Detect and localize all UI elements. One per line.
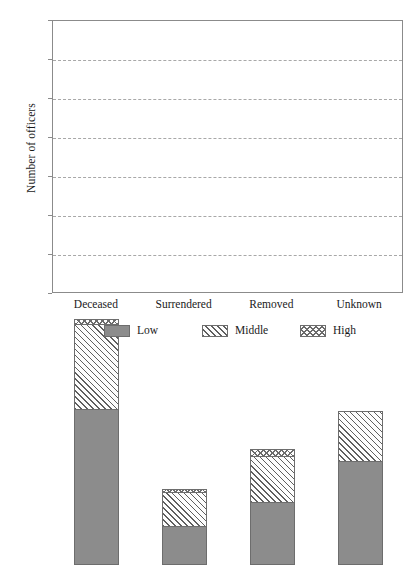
bar-segment-surrendered-high (162, 489, 207, 492)
y-tick-mark (48, 137, 52, 138)
bar-segment-removed-low (250, 502, 295, 565)
bar-segment-deceased-low (74, 409, 119, 565)
legend-entry-low[interactable]: Low (104, 322, 158, 340)
plot-inner (53, 21, 402, 292)
bar-segment-surrendered-middle (162, 492, 207, 526)
plot-area (52, 20, 403, 293)
bar-segment-removed-high (250, 449, 295, 456)
gridline (53, 60, 402, 61)
legend-swatch-middle-icon (202, 325, 228, 337)
gridline (53, 138, 402, 139)
y-tick-mark (48, 59, 52, 60)
legend-swatch-low-icon (104, 325, 130, 337)
bar-segment-removed-middle (250, 456, 295, 502)
gridline (53, 255, 402, 256)
y-tick-mark (48, 176, 52, 177)
y-tick-mark (48, 254, 52, 255)
y-tick-mark (48, 293, 52, 294)
gridline (53, 99, 402, 100)
bar-segment-unknown-middle (338, 411, 383, 461)
y-tick-mark (48, 20, 52, 21)
legend-label-middle: Middle (235, 325, 268, 337)
y-tick-mark (48, 215, 52, 216)
gridline (53, 177, 402, 178)
x-tick-label-unknown: Unknown (299, 298, 415, 310)
chart-legend: LowMiddleHigh (52, 322, 403, 342)
legend-entry-high[interactable]: High (300, 322, 356, 340)
y-axis-title: Number of officers (25, 68, 37, 228)
legend-entry-middle[interactable]: Middle (202, 322, 268, 340)
legend-label-high: High (333, 325, 356, 337)
legend-label-low: Low (137, 325, 158, 337)
legend-swatch-high-icon (300, 325, 326, 337)
bar-segment-unknown-low (338, 461, 383, 565)
y-tick-mark (48, 98, 52, 99)
bar-segment-surrendered-low (162, 526, 207, 565)
gridline (53, 216, 402, 217)
